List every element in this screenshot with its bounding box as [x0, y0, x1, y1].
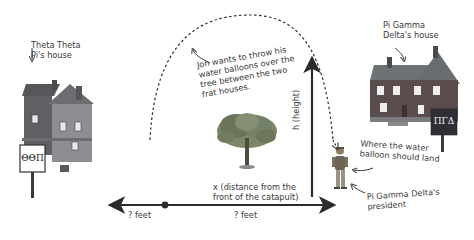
right-feet-label: ? feet	[234, 210, 257, 220]
left-feet-label: ? feet	[128, 210, 151, 220]
pi-house-label: Pi Gamma Delta's house	[383, 20, 439, 40]
pi-label-pointer-arrow	[395, 48, 404, 60]
theta-sign-text: ΘΘΠ	[20, 153, 45, 163]
distance-axis-label: x (distance from the front of the catapu…	[213, 182, 298, 202]
landing-note-pointer-arrow	[354, 168, 373, 171]
pi-sign-text: ΠΓΔ	[431, 116, 457, 126]
height-axis-label: h (height)	[291, 90, 301, 130]
catapult-origin-dot	[162, 202, 169, 209]
tree-illustration	[217, 113, 277, 169]
president-note-pointer-arrow	[352, 185, 365, 193]
president-figure	[332, 147, 348, 189]
theta-house-label: Theta Theta Pi's house	[31, 40, 81, 60]
